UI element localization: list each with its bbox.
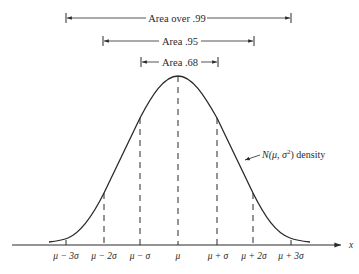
bracket-label-99: Area over .99 — [148, 13, 205, 24]
density-label: N(μ, σ2) density — [261, 148, 325, 161]
bracket-area-95: Area .95 — [103, 36, 254, 47]
tick-mu-plus-sigma: μ + σ — [207, 251, 229, 261]
diagram-canvas: Area over .99 Area .95 Area .68 x μ − 3σ… — [0, 0, 359, 274]
x-axis-label: x — [348, 240, 354, 250]
tick-labels: μ − 3σ μ − 2σ μ − σ μ μ + σ μ + 2σ μ + 3… — [52, 251, 304, 261]
dashed-guides — [104, 76, 253, 245]
tick-mu-plus-2sigma: μ + 2σ — [240, 251, 267, 261]
tick-mu-minus-sigma: μ − σ — [129, 251, 151, 261]
bracket-area-99: Area over .99 — [66, 13, 291, 24]
curve-annotation: N(μ, σ2) density — [245, 148, 325, 161]
tick-mu-minus-2sigma: μ − 2σ — [90, 251, 117, 261]
tick-mu-minus-3sigma: μ − 3σ — [52, 251, 79, 261]
bracket-label-95: Area .95 — [162, 36, 198, 47]
bracket-label-68: Area .68 — [162, 57, 198, 68]
tick-mu-plus-3sigma: μ + 3σ — [277, 251, 304, 261]
tick-mu: μ — [175, 251, 181, 261]
normal-density-figure: Area over .99 Area .95 Area .68 x μ − 3σ… — [0, 0, 359, 274]
bracket-area-68: Area .68 — [141, 57, 218, 68]
